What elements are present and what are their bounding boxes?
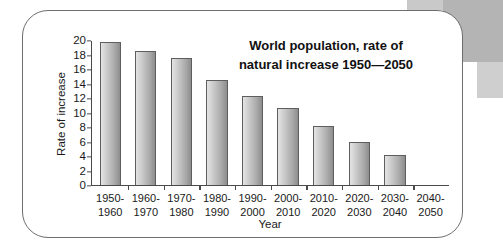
y-axis-tick-mark [87,40,91,41]
x-axis-title: Year [91,218,449,230]
bar [384,155,405,184]
background-band-right-lower [477,62,503,98]
y-axis-tick-mark [87,142,91,143]
bar-slot [92,41,128,185]
bar-slot [377,41,413,185]
bar-slot [199,41,235,185]
x-axis-tick-mark [342,186,343,190]
x-axis-category-label: 1970-1980 [164,192,200,220]
y-axis-tick-mark [87,84,91,85]
y-axis-tick-mark [87,55,91,56]
x-axis-tick-mark [164,186,165,190]
x-axis-category-label-line: 1970- [164,192,200,206]
bar [100,42,121,185]
x-axis-category-label: 1990-2000 [235,192,271,220]
y-axis-title-text: Rate of increase [55,72,67,156]
x-axis-category-label: 1960-1970 [128,192,164,220]
bar-slot [128,41,164,185]
x-axis-category-label: 2040-2050 [413,192,449,220]
x-axis-tick-mark [199,186,200,190]
screenshot-root: World population, rate of natural increa… [0,0,503,252]
x-axis-tick-mark [271,186,272,190]
x-axis-category-label-line: 2010- [306,192,342,206]
x-axis-category-label-line: 1950- [92,192,128,206]
x-axis-tick-mark [306,186,307,190]
bar [171,58,192,185]
bar [135,51,156,185]
background-band-top-strip [407,0,443,10]
bar [277,108,298,185]
x-axis-category-label: 1950-1960 [92,192,128,220]
bar-slot [235,41,271,185]
x-axis-category-label-line: 2030- [377,192,413,206]
x-axis-category-label-line: 1980- [199,192,235,206]
x-axis-category-label-line: 1990- [235,192,271,206]
bar-slot [342,41,378,185]
x-axis-category-label: 2020-2030 [342,192,378,220]
x-axis-category-label-line: 2040- [413,192,449,206]
x-axis-category-label-line: 2020- [342,192,378,206]
x-axis-category-label: 2030-2040 [377,192,413,220]
bar [206,80,227,185]
y-axis-tick-mark [87,113,91,114]
chart-card: World population, rate of natural increa… [22,10,463,238]
x-axis-tick-mark [128,186,129,190]
y-axis-tick-mark [87,69,91,70]
x-axis-category-label: 1980-1990 [199,192,235,220]
bar-slot [164,41,200,185]
x-axis-category-label: 2010-2020 [306,192,342,220]
y-axis-tick-mark [87,171,91,172]
y-axis-tick-mark [87,185,91,186]
x-axis-category-label-line: 1960- [128,192,164,206]
y-axis-title: Rate of increase [53,41,69,186]
bar-slot [270,41,306,185]
bar [313,126,334,184]
bar-slot [413,41,449,185]
y-axis-tick-mark [87,156,91,157]
x-axis-labels: 1950-19601960-19701970-19801980-19901990… [92,192,448,220]
plot-area: 02468101214161820 1950-19601960-19701970… [91,41,449,186]
x-axis-tick-mark [235,186,236,190]
bar-slot [306,41,342,185]
x-axis-title-text: Year [258,218,281,230]
x-axis-category-label-line: 2000- [270,192,306,206]
y-axis-tick-mark [87,98,91,99]
x-axis-tick-mark [413,186,414,190]
y-axis-tick-mark [87,127,91,128]
bar [349,142,370,184]
bar [242,96,263,184]
bar-series [92,41,448,185]
x-axis-category-label: 2000-2010 [270,192,306,220]
x-axis-tick-mark [378,186,379,190]
